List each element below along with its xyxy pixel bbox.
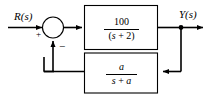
- feedback-block-denominator: s + a: [110, 76, 134, 87]
- forward-block-numerator: 100: [112, 17, 131, 28]
- block-diagram: R(s) + − Y(s) 100 (s + 2) a s + a: [0, 0, 210, 97]
- summing-junction-minus-sign: −: [59, 41, 65, 52]
- summing-junction-circle: [43, 17, 64, 38]
- feedback-denominator-operator: +: [116, 75, 127, 86]
- output-label: Y(s): [179, 9, 197, 20]
- input-label: R(s): [14, 11, 32, 22]
- feedback-denominator-constant: a: [126, 75, 131, 86]
- feedback-block-transfer-function: a s + a: [106, 62, 137, 86]
- forward-denominator-operator: +: [116, 30, 127, 41]
- summing-junction-plus-sign: +: [36, 30, 41, 39]
- feedback-block-numerator: a: [117, 62, 126, 73]
- forward-denominator-close-paren: ): [131, 30, 134, 41]
- forward-block-transfer-function: 100 (s + 2): [104, 17, 139, 41]
- forward-block-denominator: (s + 2): [106, 31, 136, 42]
